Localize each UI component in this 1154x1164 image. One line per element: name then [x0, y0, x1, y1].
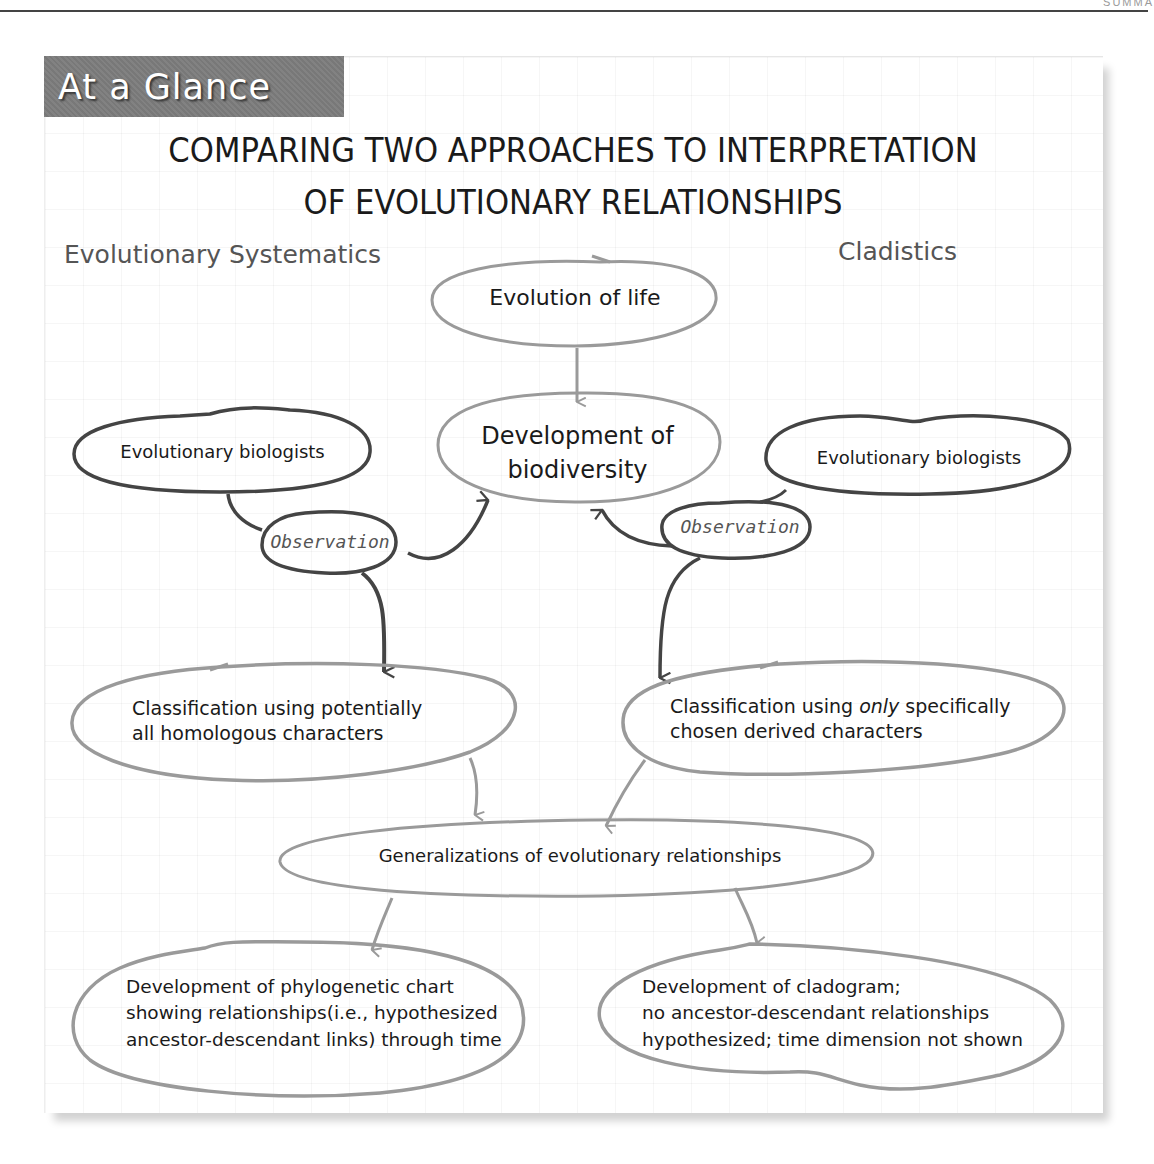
node-phylogenetic-chart-line3: ancestor-descendant links) through time — [126, 1027, 546, 1053]
node-classification-left: Classification using potentially all hom… — [132, 696, 512, 747]
node-classification-left-line2: all homologous characters — [132, 721, 512, 746]
node-development-biodiversity: Development of biodiversity — [440, 420, 715, 487]
arrow-classification-left-to-generalizations — [470, 758, 477, 815]
arrow-observation-left-to-development — [408, 500, 488, 558]
arrow-classification-right-to-generalizations — [606, 760, 645, 826]
node-classification-right-line2: chosen derived characters — [670, 719, 1060, 744]
node-generalizations: Generalizations of evolutionary relation… — [290, 844, 870, 868]
classification-right-text-post: specifically — [899, 695, 1010, 717]
node-biologists-left: Evolutionary biologists — [80, 440, 365, 464]
node-classification-left-line1: Classification using potentially — [132, 696, 512, 721]
arrow-observation-left-to-classification — [362, 573, 384, 672]
node-classification-right-line1: Classification using only specifically — [670, 694, 1060, 719]
node-observation-left: Observation — [265, 530, 395, 554]
arrow-generalizations-to-phylogenetic — [372, 898, 392, 950]
classification-right-text-pre: Classification using — [670, 695, 859, 717]
node-development-biodiversity-line1: Development of — [440, 420, 715, 454]
classification-right-text-emphasis: only — [859, 695, 899, 717]
node-development-biodiversity-line2: biodiversity — [440, 454, 715, 488]
node-phylogenetic-chart: Development of phylogenetic chart showin… — [126, 974, 546, 1053]
node-biologists-right: Evolutionary biologists — [774, 446, 1064, 470]
arrow-observation-right-to-classification — [660, 558, 700, 678]
node-evolution-of-life: Evolution of life — [440, 283, 710, 312]
node-classification-right: Classification using only specifically c… — [670, 694, 1060, 745]
node-phylogenetic-chart-line2: showing relationships(i.e., hypothesized — [126, 1000, 546, 1026]
node-observation-right: Observation — [670, 515, 810, 539]
node-cladogram-line3: hypothesized; time dimension not shown — [642, 1027, 1062, 1053]
node-cladogram-line2: no ancestor-descendant relationships — [642, 1000, 1062, 1026]
node-phylogenetic-chart-line1: Development of phylogenetic chart — [126, 974, 546, 1000]
node-cladogram-line1: Development of cladogram; — [642, 974, 1062, 1000]
arrow-generalizations-to-cladogram — [735, 888, 757, 943]
node-cladogram: Development of cladogram; no ancestor-de… — [642, 974, 1062, 1053]
